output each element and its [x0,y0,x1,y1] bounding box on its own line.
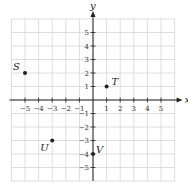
y-tick-label: 5 [85,29,89,37]
y-tick-label: 3 [85,56,89,64]
y-tick-label: −5 [79,164,89,172]
point-marker-icon [91,152,95,156]
x-tick-label: −3 [47,105,57,113]
y-tick-label: −3 [79,137,89,145]
x-tick-label: −2 [61,105,71,113]
x-tick-label: 2 [118,105,122,113]
y-axis-label: y [89,0,96,11]
point-marker-icon [50,139,54,143]
y-tick-label: 1 [85,83,89,91]
y-tick-label: 4 [85,43,90,51]
x-tick-label: 3 [132,105,136,113]
y-tick-label: −2 [79,124,89,132]
x-tick-label: −4 [33,105,44,113]
x-tick-label: 4 [145,105,150,113]
x-axis-arrow-icon [177,98,183,103]
x-tick-label: −5 [20,105,30,113]
y-tick-label: −1 [79,110,89,118]
point-label: T [112,76,120,87]
y-tick-label: −4 [79,151,90,159]
point-marker-icon [105,85,109,89]
point-marker-icon [23,71,27,75]
coordinate-plane: xy −5−4−3−2−112345−5−4−3−2−112345 STUV [0,0,188,193]
y-axis-arrow-icon [91,11,96,17]
point-label: V [96,144,105,155]
y-tick-label: 2 [85,70,89,78]
point-label: U [40,142,49,153]
x-axis-label: x [185,94,188,105]
point-label: S [13,61,20,72]
x-tick-label: 5 [159,105,163,113]
x-tick-label: 1 [104,105,108,113]
